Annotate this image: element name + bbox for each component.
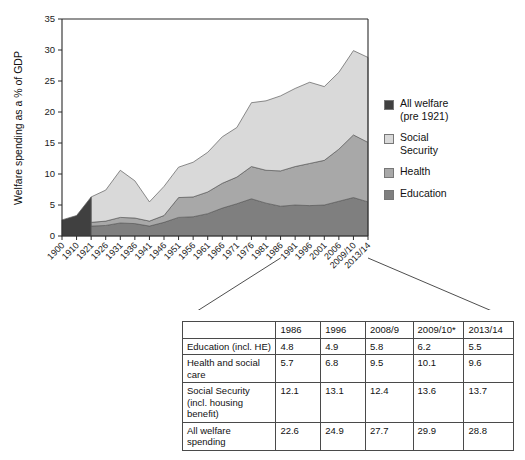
y-axis-title: Welfare spending as a % of GDP [12,51,24,205]
table-cell: 4.9 [321,338,366,355]
legend-item-education: Education [384,187,524,200]
y-tick-label: 0 [50,230,55,241]
connector-line-right [368,258,513,310]
table-row: Social Security (incl. housing benefit)1… [183,383,514,423]
table-row-label: Education (incl. HE) [183,338,276,355]
table-row: Health and social care5.76.89.510.19.6 [183,355,514,383]
table-column-header: 1986 [276,322,321,339]
table-cell: 9.5 [365,355,413,383]
legend-swatch-icon [384,190,394,200]
table-row-label: Health and social care [183,355,276,383]
legend-swatch-icon [384,168,394,178]
table-cell: 13.1 [321,383,366,423]
table-row: All welfare spending22.624.927.729.928.8 [183,422,514,450]
table-cell: 27.7 [365,422,413,450]
y-tick-label: 15 [44,137,55,148]
table-cell: 13.6 [413,383,464,423]
table-cell: 12.1 [276,383,321,423]
legend-label: Education [400,187,447,200]
y-tick-label: 20 [44,106,55,117]
legend-label: Social Security [400,131,438,156]
table-column-header: 1996 [321,322,366,339]
legend-swatch-icon [384,134,394,144]
y-axis-ticks: 05101520253035 [44,13,62,241]
legend-item-health: Health [384,165,524,178]
data-table-container: 198619962008/92009/10*2013/14 Education … [182,321,514,451]
table-cell: 10.1 [413,355,464,383]
legend-swatch-icon [384,100,394,110]
y-tick-label: 30 [44,44,55,55]
table-cell: 5.8 [365,338,413,355]
table-header-row: 198619962008/92009/10*2013/14 [183,322,514,339]
table-cell: 12.4 [365,383,413,423]
area-series-group [62,51,368,236]
table-cell: 4.8 [276,338,321,355]
chart-legend: All welfare (pre 1921)Social SecurityHea… [384,97,524,209]
y-tick-label: 25 [44,75,55,86]
table-row: Education (incl. HE)4.84.95.86.25.5 [183,338,514,355]
welfare-spending-table: 198619962008/92009/10*2013/14 Education … [182,321,514,451]
table-cell: 5.5 [464,338,514,355]
table-cell: 28.8 [464,422,514,450]
table-column-header: 2013/14 [464,322,514,339]
table-row-label: Social Security (incl. housing benefit) [183,383,276,423]
table-column-header: 2008/9 [365,322,413,339]
table-row-label: All welfare spending [183,422,276,450]
table-corner-cell [183,322,276,339]
table-column-header: 2009/10* [413,322,464,339]
table-cell: 6.2 [413,338,464,355]
area-all-welfare-pre-1921 [62,197,91,236]
legend-label: All welfare (pre 1921) [400,97,448,122]
table-cell: 29.9 [413,422,464,450]
y-tick-label: 35 [44,13,55,24]
x-axis-ticks: 1900191019211926193119361941194619511956… [45,236,372,270]
y-tick-label: 10 [44,168,55,179]
table-cell: 5.7 [276,355,321,383]
table-cell: 13.7 [464,383,514,423]
connector-line-left [183,258,281,310]
table-cell: 22.6 [276,422,321,450]
table-cell: 9.6 [464,355,514,383]
legend-label: Health [400,165,430,178]
legend-item-social: Social Security [384,131,524,156]
table-cell: 24.9 [321,422,366,450]
legend-item-all-welfare: All welfare (pre 1921) [384,97,524,122]
y-tick-label: 5 [50,199,55,210]
table-cell: 6.8 [321,355,366,383]
